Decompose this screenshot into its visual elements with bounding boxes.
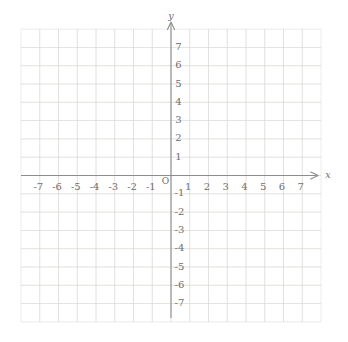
x-tick-label: 2 xyxy=(204,181,210,192)
y-tick-label: 2 xyxy=(175,132,181,143)
x-axis-label: x xyxy=(325,169,331,180)
y-tick-label: 3 xyxy=(175,114,181,125)
y-tick-label: 5 xyxy=(175,78,181,89)
y-tick-label: -4 xyxy=(175,242,185,253)
x-tick-label: -1 xyxy=(146,181,156,192)
coordinate-grid: -7-6-5-4-3-2-112345677654321-1-2-3-4-5-6… xyxy=(0,0,348,342)
x-tick-label: -6 xyxy=(52,181,62,192)
x-tick-label: 4 xyxy=(241,181,247,192)
x-tick-label: -4 xyxy=(90,181,100,192)
x-tick-label: 7 xyxy=(298,181,304,192)
y-axis-label: y xyxy=(167,10,174,21)
x-tick-label: 6 xyxy=(279,181,285,192)
x-tick-label: -7 xyxy=(33,181,43,192)
x-tick-label: -2 xyxy=(127,181,137,192)
x-tick-label: -3 xyxy=(108,181,118,192)
x-tick-label: 5 xyxy=(260,181,266,192)
y-tick-label: -1 xyxy=(175,187,185,198)
y-tick-label: 7 xyxy=(175,41,181,52)
coordinate-plane-figure: -7-6-5-4-3-2-112345677654321-1-2-3-4-5-6… xyxy=(0,0,348,342)
y-tick-label: -3 xyxy=(175,224,185,235)
x-tick-label: -5 xyxy=(71,181,81,192)
y-tick-label: 6 xyxy=(175,59,181,70)
y-tick-label: -2 xyxy=(175,206,185,217)
y-tick-label: 1 xyxy=(175,151,181,162)
x-tick-label: 3 xyxy=(223,181,229,192)
x-tick-label: 1 xyxy=(185,181,191,192)
origin-label: O xyxy=(162,176,169,186)
y-tick-label: -7 xyxy=(175,297,185,308)
y-tick-label: -6 xyxy=(175,279,185,290)
y-tick-label: 4 xyxy=(175,96,181,107)
y-tick-label: -5 xyxy=(175,261,185,272)
